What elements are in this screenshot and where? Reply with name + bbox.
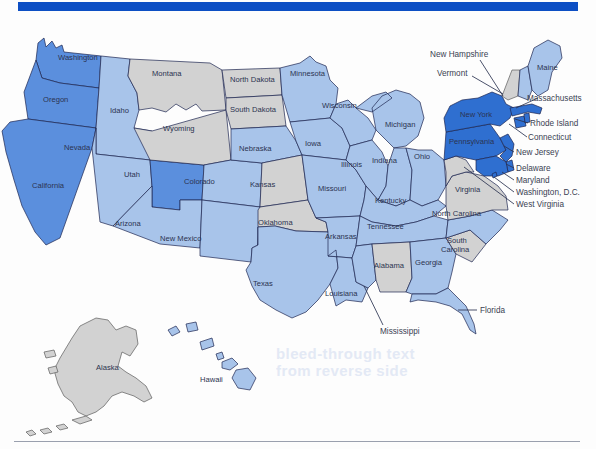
- figure-page: bleed-through text from reverse side .c-…: [0, 0, 596, 449]
- state-label-KY: Kentucky: [375, 196, 406, 205]
- state-label-WI: Wisconsin: [322, 101, 357, 110]
- outside-label-DE: Delaware: [516, 164, 551, 173]
- state-label-SC-line2: Carolina: [441, 245, 470, 254]
- state-label-OH: Ohio: [414, 152, 430, 161]
- us-choropleth-map: .c-dark{fill:#2f6fd0} .c-med{fill:#5b8fd…: [0, 0, 596, 449]
- state-label-VA: Virginia: [455, 185, 481, 194]
- state-label-NM: New Mexico: [160, 234, 201, 243]
- state-label-TN: Tennessee: [367, 222, 404, 231]
- state-label-UT: Utah: [124, 170, 140, 179]
- leader-NH: [480, 60, 503, 96]
- state-label-WY: Wyoming: [163, 124, 195, 133]
- state-label-NE: Nebraska: [239, 144, 272, 153]
- state-VT[interactable]: [502, 70, 520, 100]
- state-label-MT: Montana: [152, 69, 182, 78]
- alaska-islands: [44, 350, 58, 374]
- state-label-MI: Michigan: [385, 120, 415, 129]
- state-NM[interactable]: [200, 200, 260, 262]
- state-label-PA: Pennsylvania: [449, 137, 495, 146]
- state-label-MO: Missouri: [318, 184, 347, 193]
- state-label-WA: Washington: [58, 53, 98, 62]
- state-MT[interactable]: [128, 59, 226, 112]
- outside-label-MS: Mississippi: [380, 327, 420, 336]
- leader-MD: [502, 172, 514, 180]
- state-label-ND: North Dakota: [230, 75, 276, 84]
- outside-label-NJ: New Jersey: [516, 148, 560, 157]
- state-label-IN: Indiana: [372, 156, 398, 165]
- state-label-ME: Maine: [537, 63, 558, 72]
- state-label-MN: Minnesota: [290, 69, 326, 78]
- state-label-TX: Texas: [253, 279, 273, 288]
- leader-VT: [472, 76, 503, 94]
- state-label-IA: Iowa: [305, 139, 322, 148]
- state-label-SD: South Dakota: [230, 105, 277, 114]
- outside-label-MA: Massachusetts: [527, 94, 582, 103]
- state-label-NY: New York: [460, 110, 492, 119]
- state-WY[interactable]: [134, 110, 231, 165]
- bottom-rule: [14, 441, 580, 442]
- outside-label-FL: Florida: [480, 306, 505, 315]
- state-label-SC-line1: South: [447, 236, 467, 245]
- outside-label-VT: Vermont: [437, 69, 468, 78]
- state-label-KS: Kansas: [250, 180, 276, 189]
- map-svg: .c-dark{fill:#2f6fd0} .c-med{fill:#5b8fd…: [0, 0, 596, 449]
- state-label-GA: Georgia: [415, 258, 443, 267]
- outside-label-MD: Maryland: [516, 176, 550, 185]
- state-MN[interactable]: [280, 56, 338, 122]
- state-label-CO: Colorado: [184, 177, 215, 186]
- state-label-HI: Hawaii: [200, 375, 223, 384]
- state-FL[interactable]: [410, 288, 476, 334]
- alaska-aleutians: [26, 416, 92, 436]
- state-label-CA: California: [32, 181, 65, 190]
- state-label-AK: Alaska: [96, 363, 120, 372]
- state-label-NC: North Carolina: [432, 209, 482, 218]
- state-label-IL: Illinois: [341, 160, 362, 169]
- state-label-OK: Oklahoma: [258, 218, 293, 227]
- outside-label-RI: Rhode Island: [530, 119, 579, 128]
- outside-label-CT: Connecticut: [528, 133, 572, 142]
- state-label-ID: Idaho: [110, 106, 129, 115]
- state-label-AR: Arkansas: [325, 232, 357, 241]
- outside-label-NH: New Hampshire: [430, 50, 489, 59]
- state-label-AL: Alabama: [374, 261, 405, 270]
- outside-label-WV: West Virginia: [516, 200, 564, 209]
- state-label-NV: Nevada: [64, 143, 91, 152]
- state-label-AZ: Arizona: [115, 219, 142, 228]
- outside-label-DC: Washington, D.C.: [516, 188, 580, 197]
- state-label-LA: Louisiana: [325, 289, 358, 298]
- state-label-OR: Oregon: [43, 95, 68, 104]
